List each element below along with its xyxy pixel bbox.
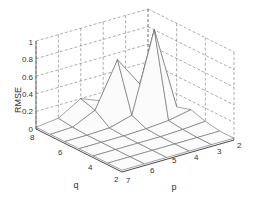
z-axis-ticks: 10.80.60.40.20	[22, 38, 34, 134]
z-tick-label: 0.4	[22, 90, 34, 99]
q-tick-label: 2	[114, 175, 119, 184]
q-tick-label: 4	[88, 163, 93, 172]
q-tick-label: 8	[30, 133, 35, 142]
z-tick-label: 0.2	[22, 107, 34, 116]
z-tick-label: 0.8	[22, 55, 34, 64]
p-tick-label: 3	[217, 147, 222, 156]
p-axis-label: p	[171, 182, 176, 192]
rmse-surface-plot: 10.80.60.40.20 8642 765432 RMSE q p	[0, 0, 255, 199]
q-axis-label: q	[73, 180, 78, 190]
p-tick-label: 4	[194, 153, 199, 162]
p-tick-label: 6	[150, 166, 155, 175]
p-tick-label: 7	[126, 176, 131, 185]
z-tick-label: 0.6	[22, 73, 34, 82]
surface-mesh	[36, 30, 234, 171]
p-tick-label: 2	[237, 141, 242, 150]
p-tick-label: 5	[172, 156, 177, 165]
z-axis-label: RMSE	[13, 87, 23, 113]
q-tick-label: 6	[58, 148, 63, 157]
z-tick-label: 1	[29, 38, 34, 47]
